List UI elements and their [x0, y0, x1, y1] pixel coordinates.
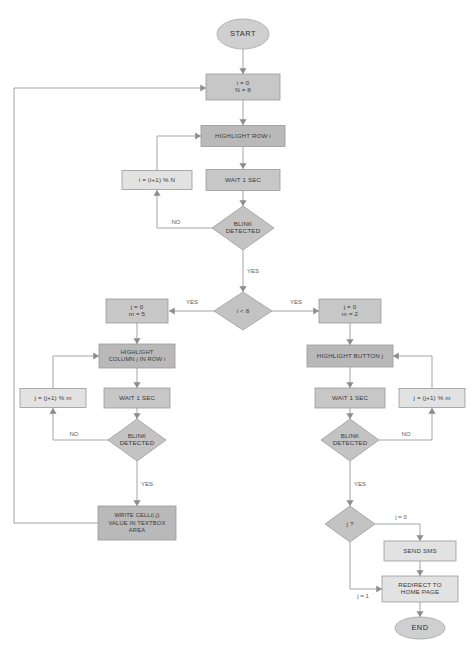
edge-label: YES [247, 268, 259, 274]
node-label: i = 0 [237, 79, 250, 86]
flow-edge [239, 250, 246, 292]
flow-node-wait1[interactable]: WAIT 1 SEC [206, 170, 280, 191]
edge-line [375, 524, 420, 541]
edge-arrowhead [239, 286, 246, 292]
flow-node-start[interactable]: START [217, 19, 269, 49]
edge-line [157, 136, 201, 171]
edge-arrowhead [169, 307, 175, 314]
node-label: BLINK [128, 432, 147, 439]
flow-edge [346, 323, 353, 345]
edge-arrowhead [239, 163, 246, 169]
flow-edge [49, 408, 108, 440]
edge-line [393, 356, 432, 389]
flow-node-send_sms[interactable]: SEND SMS [384, 541, 456, 561]
flow-edge [239, 100, 246, 125]
flow-edge [375, 524, 424, 541]
flow-node-write_cell[interactable]: WRITE CELL(i,j)VALUE IN TEXTBOXAREA [98, 506, 176, 540]
flow-edge [153, 190, 212, 228]
node-label: START [230, 29, 256, 38]
flow-node-init_i[interactable]: i = 0N = 8 [206, 74, 280, 100]
edge-labels-layer: NOYESYESYESNOYESNOYESj = 0j = 1 [70, 219, 411, 599]
edge-label: j = 0 [394, 514, 407, 520]
node-label: HIGHLIGHT BUTTON j [317, 352, 383, 359]
edge-arrowhead [195, 132, 201, 139]
flow-edge [346, 408, 353, 419]
edge-label: YES [290, 299, 302, 305]
node-label: VALUE IN TEXTBOX [109, 520, 166, 526]
flow-edge [157, 132, 201, 171]
node-label: j = 0 [343, 303, 357, 310]
edge-arrowhead [346, 382, 353, 388]
flow-node-blink1[interactable]: BLINKDETECTED [212, 206, 274, 250]
node-label: j = (j+1) % m [412, 394, 450, 401]
node-label: REDIRECT TO [398, 581, 441, 588]
edge-arrowhead [346, 500, 353, 506]
node-label: j ? [346, 520, 354, 527]
node-label: WRITE CELL(i,j) [114, 512, 159, 518]
node-label: BLINK [341, 432, 360, 439]
edge-arrowhead [93, 352, 99, 359]
flowchart-canvas: STARTi = 0N = 8HIGHLIGHT ROW iWAIT 1 SEC… [0, 0, 476, 649]
edge-arrowhead [133, 500, 140, 506]
node-label: DETECTED [333, 439, 368, 446]
edge-label: YES [186, 299, 198, 305]
flowchart-svg: STARTi = 0N = 8HIGHLIGHT ROW iWAIT 1 SEC… [0, 0, 476, 649]
edge-label: YES [354, 481, 366, 487]
flow-edge [133, 323, 140, 344]
node-label: WAIT 1 SEC [225, 176, 262, 183]
edge-arrowhead [428, 408, 435, 414]
node-label: WAIT 1 SEC [332, 394, 369, 401]
flow-node-wait3[interactable]: WAIT 1 SEC [315, 388, 385, 408]
flow-node-blink2[interactable]: BLINKDETECTED [108, 419, 166, 461]
flow-edge [346, 367, 353, 388]
node-label: WAIT 1 SEC [119, 394, 156, 401]
edge-line [53, 356, 99, 389]
edge-arrowhead [346, 339, 353, 345]
node-label: j = 0 [130, 303, 144, 310]
node-label: END [411, 623, 428, 632]
flow-node-hl_button[interactable]: HIGHLIGHT BUTTON j [307, 345, 393, 367]
edge-label: j = 1 [356, 593, 369, 599]
flow-node-hl_row[interactable]: HIGHLIGHT ROW i [201, 126, 285, 147]
node-label: HIGHLIGHT [121, 349, 154, 355]
flow-node-inc_j_right[interactable]: j = (j+1) % m [399, 389, 465, 408]
node-label: BLINK [234, 220, 253, 227]
edge-arrowhead [133, 382, 140, 388]
flow-node-init_j_left[interactable]: j = 0m = 5 [106, 299, 168, 323]
flow-node-end[interactable]: END [395, 617, 445, 639]
edge-label: YES [141, 481, 153, 487]
flow-node-wait2[interactable]: WAIT 1 SEC [104, 388, 170, 408]
edge-arrowhead [133, 338, 140, 344]
nodes-layer: STARTi = 0N = 8HIGHLIGHT ROW iWAIT 1 SEC… [20, 19, 465, 639]
edge-arrowhead [49, 408, 56, 414]
node-label: COLUMN j IN ROW i [109, 356, 166, 362]
edge-line [157, 190, 212, 228]
edge-arrowhead [239, 68, 246, 74]
edge-arrowhead [313, 307, 319, 314]
edge-line [53, 408, 108, 440]
node-label: AREA [129, 527, 145, 533]
flow-edge [133, 368, 140, 388]
flow-node-inc_i[interactable]: i = (i+1) % N [122, 171, 192, 190]
flow-edge [416, 602, 423, 617]
edge-label: NO [172, 219, 181, 225]
node-label: j = (j+1) % m [33, 394, 71, 401]
flow-node-blink3[interactable]: BLINKDETECTED [321, 419, 379, 461]
flow-node-redirect[interactable]: REDIRECT TOHOME PAGE [382, 576, 458, 602]
flow-node-init_j_right[interactable]: j = 0m = 2 [319, 299, 381, 323]
edge-arrowhead [346, 413, 353, 419]
flow-edge [239, 191, 246, 206]
flow-edge [393, 352, 432, 389]
flow-edge [53, 352, 99, 389]
flow-node-hl_col[interactable]: HIGHLIGHTCOLUMN j IN ROW i [99, 344, 175, 368]
flow-edge [350, 542, 382, 593]
flow-edge [239, 147, 246, 169]
flow-node-check_j[interactable]: j ? [325, 506, 375, 542]
edge-arrowhead [416, 611, 423, 617]
edge-arrowhead [376, 585, 382, 592]
edge-arrowhead [416, 535, 423, 541]
node-label: DETECTED [226, 227, 261, 234]
flow-node-inc_j_left[interactable]: j = (j+1) % m [20, 389, 86, 408]
node-label: m = 5 [129, 310, 146, 317]
flow-node-cmp_i[interactable]: i < 8 [214, 292, 272, 330]
